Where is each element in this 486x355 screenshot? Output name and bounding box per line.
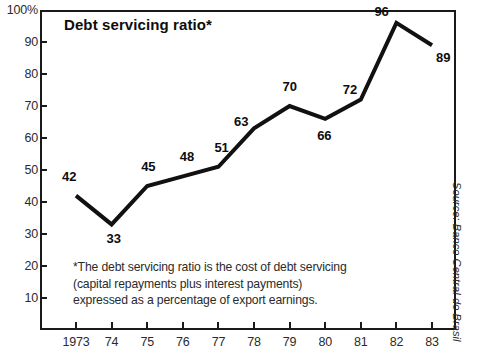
x-tick-label-76: 76 bbox=[176, 335, 190, 349]
y-axis: 102030405060708090100% bbox=[0, 0, 38, 355]
x-tick-label-81: 81 bbox=[354, 335, 368, 349]
x-axis: 197374757677787980818283 bbox=[0, 333, 486, 355]
x-tick-label-83: 83 bbox=[425, 335, 439, 349]
y-tick-label-40: 40 bbox=[0, 196, 38, 209]
x-tick-mark-74 bbox=[111, 322, 113, 329]
y-tick-mark-30 bbox=[40, 233, 47, 235]
y-tick-label-60: 60 bbox=[0, 132, 38, 145]
y-tick-label-70: 70 bbox=[0, 100, 38, 113]
data-label-83: 89 bbox=[436, 51, 450, 64]
data-label-80: 66 bbox=[317, 129, 331, 142]
data-label-79: 70 bbox=[283, 80, 297, 93]
y-tick-label-20: 20 bbox=[0, 260, 38, 273]
x-tick-mark-1973 bbox=[75, 322, 77, 329]
y-tick-mark-50 bbox=[40, 169, 47, 171]
x-tick-label-75: 75 bbox=[140, 335, 154, 349]
data-label-82: 96 bbox=[374, 5, 388, 18]
x-tick-label-79: 79 bbox=[283, 335, 297, 349]
chart-figure: 102030405060708090100% 19737475767778798… bbox=[0, 0, 486, 355]
data-label-75: 45 bbox=[141, 160, 155, 173]
x-axis-ticks bbox=[0, 322, 486, 332]
footnote: *The debt servicing ratio is the cost of… bbox=[73, 259, 363, 309]
x-tick-label-74: 74 bbox=[105, 335, 119, 349]
y-tick-label-80: 80 bbox=[0, 68, 38, 81]
data-label-74: 33 bbox=[107, 232, 121, 245]
footnote-line-1: *The debt servicing ratio is the cost of… bbox=[73, 259, 363, 276]
y-tick-mark-70 bbox=[40, 105, 47, 107]
data-label-81: 72 bbox=[343, 83, 357, 96]
chart-title: Debt servicing ratio* bbox=[64, 16, 212, 33]
x-tick-mark-77 bbox=[217, 322, 219, 329]
source-note: Source: Banco Central do Brasil bbox=[451, 182, 463, 352]
x-tick-mark-79 bbox=[289, 322, 291, 329]
y-tick-label-100: 100% bbox=[0, 4, 38, 17]
x-tick-mark-78 bbox=[253, 322, 255, 329]
x-tick-mark-75 bbox=[146, 322, 148, 329]
y-tick-mark-40 bbox=[40, 201, 47, 203]
y-tick-label-90: 90 bbox=[0, 36, 38, 49]
x-tick-label-1973: 1973 bbox=[62, 335, 89, 349]
x-tick-label-77: 77 bbox=[212, 335, 226, 349]
y-tick-label-50: 50 bbox=[0, 164, 38, 177]
y-tick-mark-80 bbox=[40, 73, 47, 75]
x-tick-mark-81 bbox=[360, 322, 362, 329]
x-tick-mark-80 bbox=[324, 322, 326, 329]
x-tick-label-78: 78 bbox=[247, 335, 261, 349]
x-tick-mark-83 bbox=[431, 322, 433, 329]
x-tick-mark-76 bbox=[182, 322, 184, 329]
x-tick-label-82: 82 bbox=[390, 335, 404, 349]
y-tick-mark-60 bbox=[40, 137, 47, 139]
y-tick-mark-90 bbox=[40, 41, 47, 43]
y-axis-ticks bbox=[40, 10, 52, 330]
data-label-76: 48 bbox=[180, 150, 194, 163]
footnote-line-2: (capital repayments plus interest paymen… bbox=[73, 276, 363, 293]
data-label-1973: 42 bbox=[62, 170, 76, 183]
y-tick-label-10: 10 bbox=[0, 292, 38, 305]
x-tick-mark-82 bbox=[395, 322, 397, 329]
y-tick-mark-20 bbox=[40, 265, 47, 267]
data-label-77: 51 bbox=[214, 141, 228, 154]
footnote-line-3: expressed as a percentage of export earn… bbox=[73, 292, 363, 309]
data-label-78: 63 bbox=[234, 115, 248, 128]
y-tick-mark-10 bbox=[40, 297, 47, 299]
x-tick-label-80: 80 bbox=[318, 335, 332, 349]
y-tick-label-30: 30 bbox=[0, 228, 38, 241]
